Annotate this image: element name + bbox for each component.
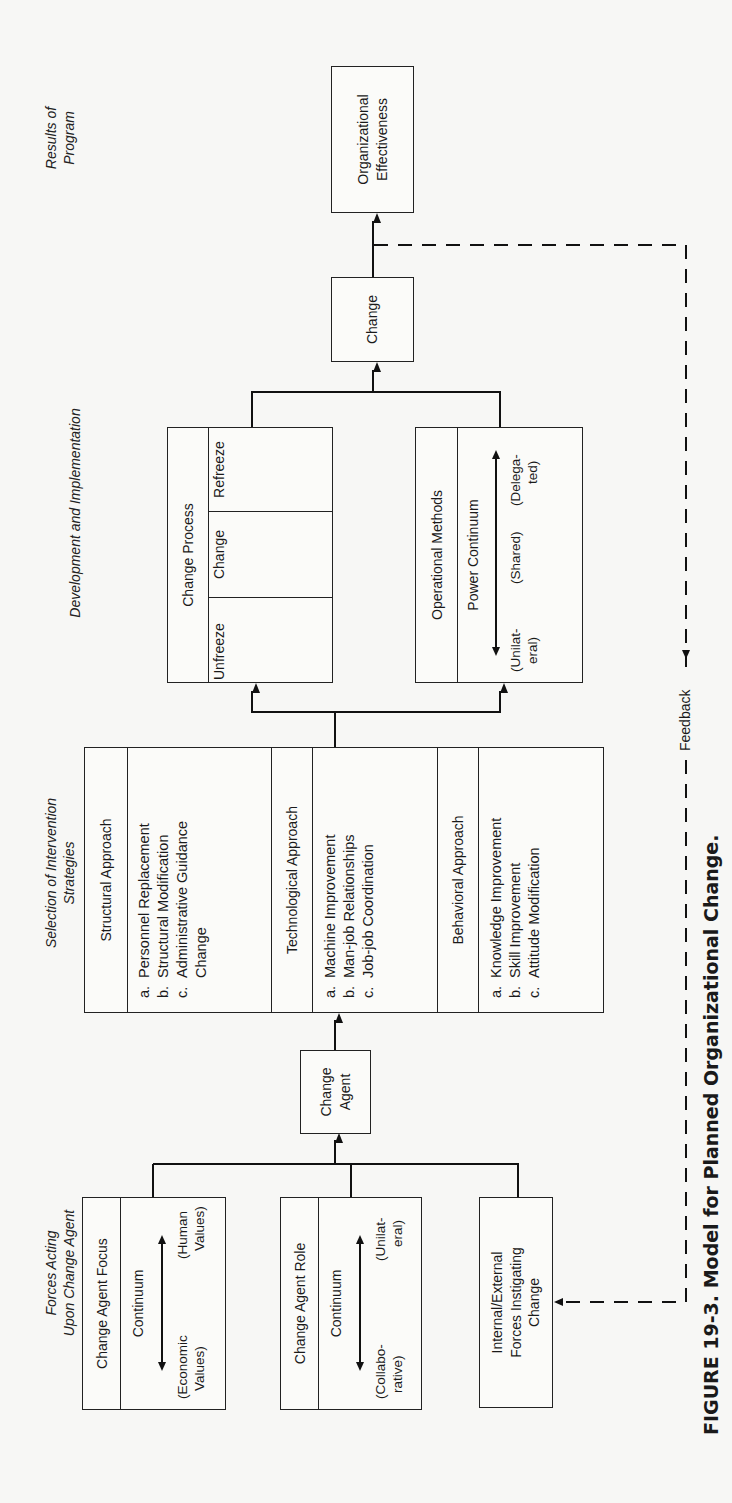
change-process-box: Change Process Unfreeze Change Refreeze — [167, 427, 333, 683]
list-letter: b. — [154, 978, 173, 998]
role-right-line2: eral) — [390, 1199, 407, 1261]
behavioral-approach-list: a.Knowledge Improvement b.Skill Improvem… — [487, 748, 544, 998]
change-agent-line2: Agent — [336, 1074, 355, 1111]
heading-selection-line1: Selection of Intervention — [42, 763, 60, 983]
planned-change-model-diagram: Forces Acting Upon Change Agent Selectio… — [0, 0, 732, 1503]
list-item: a.Personnel Replacement — [135, 748, 154, 998]
list-text: Job-job Coordination — [359, 844, 378, 978]
results-line1: Organizational — [354, 94, 373, 184]
change-box: Change — [331, 277, 414, 362]
heading-results: Results of Program — [42, 73, 78, 203]
list-item: c.Administrative Guidance — [173, 748, 192, 998]
power-point-unilateral: (Unilat- eral) — [508, 602, 542, 672]
list-item: c.Attitude Modification — [525, 748, 544, 998]
list-text: Structural Modification — [154, 835, 173, 978]
internal-external-forces-box: Internal/External Forces Instigating Cha… — [479, 1197, 553, 1408]
arrow-right-icon — [330, 1133, 340, 1143]
operational-methods-box: Operational Methods Power Continuum (Uni… — [415, 427, 583, 683]
change-agent-role-title: Change Agent Role — [281, 1198, 319, 1409]
focus-right-label: (Human Values) — [175, 1199, 209, 1259]
connector-line — [499, 691, 501, 713]
power-continuum-label: Power Continuum — [462, 428, 484, 682]
list-text: Knowledge Improvement — [487, 818, 506, 978]
change-agent-focus-title: Change Agent Focus — [83, 1198, 121, 1409]
role-right-line1: (Unilat- — [373, 1199, 390, 1261]
list-letter: a. — [321, 978, 340, 998]
internal-external-line1: Internal/External — [488, 1252, 507, 1354]
stage-refreeze: Refreeze — [208, 428, 332, 511]
heading-results-line2: Program — [60, 73, 78, 203]
heading-forces-line1: Forces Acting — [42, 1173, 60, 1373]
connector-line — [372, 221, 374, 277]
structural-approach-title: Structural Approach — [85, 748, 128, 1012]
stage-change: Change — [208, 511, 332, 597]
connector-line — [334, 712, 336, 747]
role-left-line1: (Collabo- — [373, 1319, 390, 1399]
feedback-label: Feedback — [677, 690, 693, 751]
focus-left-line1: (Economic — [175, 1319, 192, 1399]
connector-line — [350, 1164, 352, 1197]
power-point-delegated: (Delega- ted) — [508, 430, 542, 506]
arrow-right-icon — [368, 213, 378, 223]
list-item: c.Job-job Coordination — [359, 748, 378, 998]
change-agent-box: Change Agent — [300, 1050, 371, 1134]
list-item: b.Structural Modification — [154, 748, 173, 998]
power-point-line2: eral) — [525, 602, 542, 672]
list-text: Machine Improvement — [321, 835, 340, 978]
connector-line — [153, 1163, 519, 1165]
role-left-line2: rative) — [390, 1319, 407, 1399]
technological-approach-list: a.Machine Improvement b.Man-job Relation… — [321, 748, 378, 998]
intervention-strategies-box: Structural Approach a.Personnel Replacem… — [84, 747, 604, 1013]
list-item: a.Machine Improvement — [321, 748, 340, 998]
connector-line — [499, 392, 501, 427]
operational-methods-title: Operational Methods — [416, 428, 458, 682]
list-item: b.Skill Improvement — [506, 748, 525, 998]
heading-forces-line2: Upon Change Agent — [60, 1173, 78, 1373]
list-text: Personnel Replacement — [135, 823, 154, 978]
list-letter — [192, 978, 211, 998]
power-point-line1: (Shared) — [508, 514, 525, 584]
change-agent-focus-box: Change Agent Focus Continuum (Economic V… — [82, 1197, 226, 1410]
heading-selection: Selection of Intervention Strategies — [42, 763, 78, 983]
power-point-line2: ted) — [525, 430, 542, 506]
list-letter: c. — [173, 978, 192, 998]
arrow-right-icon — [495, 683, 505, 693]
arrow-right-icon — [247, 683, 257, 693]
connector-line — [251, 391, 501, 393]
list-text: Skill Improvement — [506, 863, 525, 978]
connector-line — [517, 1164, 519, 1197]
power-point-line1: (Delega- — [508, 430, 525, 506]
results-line2: Effectiveness — [373, 98, 392, 181]
list-letter: b. — [340, 978, 359, 998]
list-text: Attitude Modification — [525, 847, 544, 978]
heading-results-line1: Results of — [42, 73, 60, 203]
power-point-shared: (Shared) — [508, 514, 525, 584]
figure-caption: FIGURE 19-3. Model for Planned Organizat… — [700, 835, 722, 1435]
change-agent-line1: Change — [317, 1067, 336, 1116]
internal-external-line2: Forces Instigating — [507, 1247, 526, 1358]
focus-left-label: (Economic Values) — [175, 1319, 209, 1399]
heading-development: Development and Implementation — [66, 383, 84, 643]
connector-line — [334, 1020, 336, 1050]
list-letter: c. — [359, 978, 378, 998]
change-process-title: Change Process — [168, 428, 209, 682]
heading-forces: Forces Acting Upon Change Agent — [42, 1173, 78, 1373]
list-item: a.Knowledge Improvement — [487, 748, 506, 998]
connector-line — [152, 1164, 154, 1197]
connector-line — [334, 1140, 336, 1164]
double-arrow-icon — [351, 1235, 361, 1371]
structural-approach-list: a.Personnel Replacement b.Structural Mod… — [135, 748, 210, 998]
list-letter: b. — [506, 978, 525, 998]
connector-line — [251, 691, 253, 713]
internal-external-line3: Change — [525, 1278, 544, 1327]
focus-right-line1: (Human — [175, 1199, 192, 1259]
role-left-label: (Collabo- rative) — [373, 1319, 407, 1399]
arrow-right-icon — [330, 1013, 340, 1023]
role-right-label: (Unilat- eral) — [373, 1199, 407, 1261]
list-letter: c. — [525, 978, 544, 998]
double-arrow-icon — [487, 450, 497, 656]
role-continuum-label: Continuum — [325, 1198, 347, 1409]
stage-unfreeze: Unfreeze — [208, 597, 332, 682]
list-text: Change — [192, 927, 211, 978]
behavioral-approach-title: Behavioral Approach — [437, 748, 479, 1012]
